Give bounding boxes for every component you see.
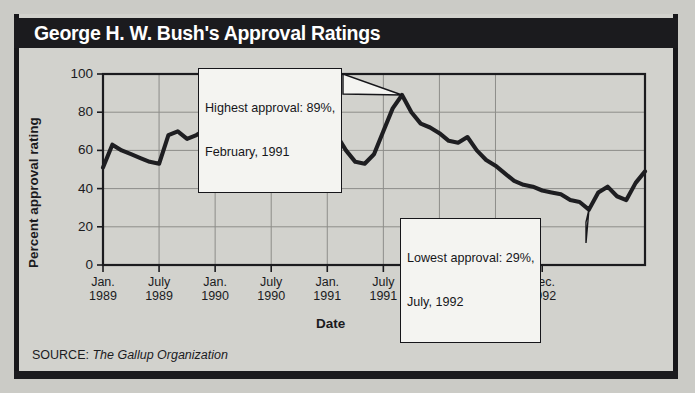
source-organization: The Gallup Organization (92, 348, 228, 362)
x-tick-label-month: July (131, 275, 187, 289)
y-tick-label: 60 (61, 142, 93, 157)
x-tick-label: July1990 (243, 275, 299, 303)
callout-lowest-line2: July, 1992 (407, 295, 534, 310)
y-tick-label: 100 (61, 66, 93, 81)
x-axis-title: Date (316, 316, 345, 331)
plot-background (103, 74, 645, 265)
x-tick-label-month: Jan. (187, 275, 243, 289)
y-axis-title-text: Percent approval rating (26, 117, 41, 268)
x-tick-label: Jan.1990 (187, 275, 243, 303)
x-tick-label-year: 1990 (187, 289, 243, 303)
callout-lowest-approval: Lowest approval: 29%, July, 1992 (400, 218, 541, 343)
chart-svg (0, 0, 695, 393)
x-tick-label-year: 1989 (131, 289, 187, 303)
source-prefix: SOURCE: (32, 348, 89, 362)
y-tick-label: 80 (61, 104, 93, 119)
y-axis-title: Percent approval rating (22, 72, 42, 272)
bottom-bar (14, 371, 678, 379)
source-note: SOURCE: The Gallup Organization (32, 348, 228, 362)
callout-highest-line1: Highest approval: 89%, (205, 101, 335, 116)
x-tick-label: July1989 (131, 275, 187, 303)
x-tick-label-year: 1991 (299, 289, 355, 303)
x-tick-label-year: 1989 (75, 289, 131, 303)
callout-highest-approval: Highest approval: 89%, February, 1991 (198, 68, 342, 193)
callout-lowest-line1: Lowest approval: 29%, (407, 251, 534, 266)
x-tick-label: Jan.1991 (299, 275, 355, 303)
y-tick-label: 0 (61, 257, 93, 272)
callout-highest-line2: February, 1991 (205, 145, 335, 160)
x-tick-label: Jan.1989 (75, 275, 131, 303)
y-tick-label: 40 (61, 181, 93, 196)
x-tick-label-year: 1990 (243, 289, 299, 303)
x-tick-label-month: July (243, 275, 299, 289)
plot-area (0, 0, 695, 393)
chart-page: George H. W. Bush's Approval Ratings Per… (0, 0, 695, 393)
y-tick-label: 20 (61, 219, 93, 234)
x-tick-label-month: Jan. (75, 275, 131, 289)
x-tick-label-month: Jan. (299, 275, 355, 289)
